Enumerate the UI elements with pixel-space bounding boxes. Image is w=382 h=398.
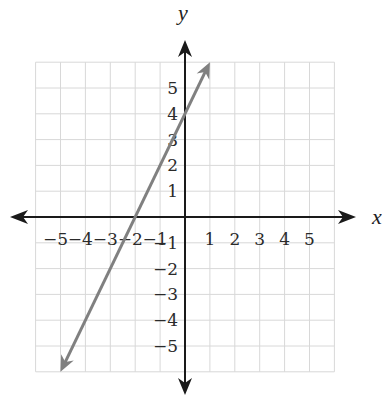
y-tick-label: −4 [153, 310, 178, 330]
y-tick-label: 4 [167, 104, 178, 124]
y-tick-label: 2 [167, 155, 178, 175]
axes [10, 40, 356, 395]
x-axis-label: x [371, 204, 382, 229]
y-tick-label: −1 [153, 233, 178, 253]
y-tick-label: −2 [153, 259, 178, 279]
x-tick-label: 5 [304, 229, 315, 249]
coordinate-plane: −5−4−3−2−11234554321−1−2−3−4−5 x y [0, 0, 382, 398]
y-tick-label: 1 [167, 181, 178, 201]
y-tick-label: −5 [153, 336, 178, 356]
x-tick-label: 2 [229, 229, 240, 249]
y-tick-label: −3 [153, 284, 178, 304]
y-axis-label: y [176, 0, 188, 25]
x-tick-label: −5 [43, 229, 68, 249]
x-tick-label: 4 [279, 229, 290, 249]
x-tick-label: −4 [68, 229, 93, 249]
y-tick-label: 5 [167, 78, 178, 98]
x-tick-label: 1 [204, 229, 215, 249]
x-tick-label: 3 [254, 229, 265, 249]
x-tick-label: −3 [93, 229, 118, 249]
